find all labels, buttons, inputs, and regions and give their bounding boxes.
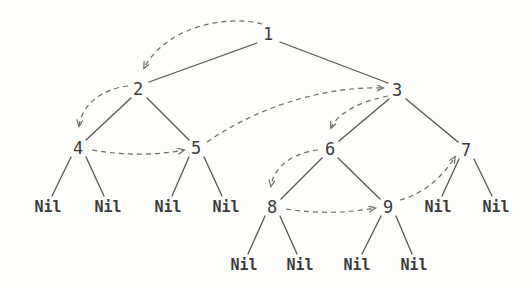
traversal-arrow <box>207 88 383 142</box>
traversal-arrows-group <box>79 21 455 212</box>
tree-node-6: 6 <box>325 141 335 158</box>
tree-edge <box>248 216 265 254</box>
tree-edge <box>339 99 389 141</box>
traversal-arrow <box>79 86 128 126</box>
tree-node-8: 8 <box>267 199 277 216</box>
nil-leaf-label: Nil <box>230 258 257 273</box>
tree-edge <box>406 99 458 142</box>
traversal-arrow <box>144 21 262 68</box>
nil-leaf-label: Nil <box>482 200 509 215</box>
tree-node-3: 3 <box>392 82 402 99</box>
tree-node-2: 2 <box>133 81 143 98</box>
tree-edge <box>86 98 131 140</box>
traversal-arrow <box>271 150 318 186</box>
tree-node-7: 7 <box>461 142 471 159</box>
traversal-arrow <box>400 157 455 200</box>
tree-node-4: 4 <box>73 140 83 157</box>
tree-edge <box>442 159 459 196</box>
tree-node-9: 9 <box>383 199 393 216</box>
binary-tree-diagram: 123456789 NilNilNilNilNilNilNilNilNilNil <box>0 0 532 291</box>
nil-leaf-label: Nil <box>286 258 313 273</box>
tree-edge <box>280 216 297 254</box>
tree-edge <box>86 157 104 196</box>
nil-leaf-label: Nil <box>212 200 239 215</box>
nil-leaf-label: Nil <box>424 200 451 215</box>
traversal-arrow <box>286 208 375 212</box>
tree-node-1: 1 <box>263 26 273 43</box>
tree-edge <box>362 216 381 254</box>
nil-leaf-label: Nil <box>343 258 370 273</box>
nil-leaf-label: Nil <box>34 200 61 215</box>
nil-leaf-label: Nil <box>94 200 121 215</box>
tree-edge <box>52 157 71 196</box>
tree-node-5: 5 <box>191 140 201 157</box>
traversal-arrow <box>92 150 184 154</box>
tree-edge <box>147 98 189 140</box>
tree-edge <box>172 157 189 196</box>
tree-edge <box>338 158 380 199</box>
tree-edge <box>204 157 222 196</box>
tree-edge <box>149 43 257 82</box>
nil-leaf-label: Nil <box>154 200 181 215</box>
tree-edge <box>281 158 322 199</box>
tree-edge <box>280 42 388 83</box>
tree-edge <box>396 216 412 254</box>
tree-edge <box>474 159 492 196</box>
tree-edges-group <box>52 42 492 254</box>
nil-leaf-label: Nil <box>400 258 427 273</box>
